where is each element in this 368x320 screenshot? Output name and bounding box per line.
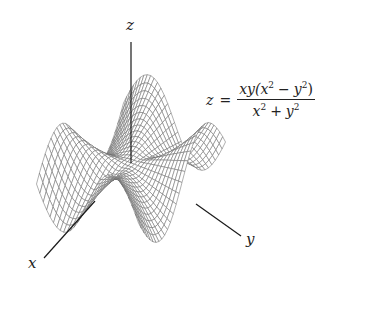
formula-denominator: x2+y2 <box>252 100 299 119</box>
formula-numerator: xy(x2−y2) <box>237 80 315 100</box>
y-axis-label: y <box>246 232 254 247</box>
formula-lhs: z <box>206 92 213 108</box>
y-axis <box>196 204 241 236</box>
x-axis-label: x <box>28 256 36 271</box>
z-axis-label: z <box>126 18 134 33</box>
formula-equals: = <box>219 92 231 108</box>
surface-plot <box>0 0 368 320</box>
formula: z = xy(x2−y2) x2+y2 <box>206 80 315 119</box>
formula-fraction: xy(x2−y2) x2+y2 <box>237 80 315 119</box>
